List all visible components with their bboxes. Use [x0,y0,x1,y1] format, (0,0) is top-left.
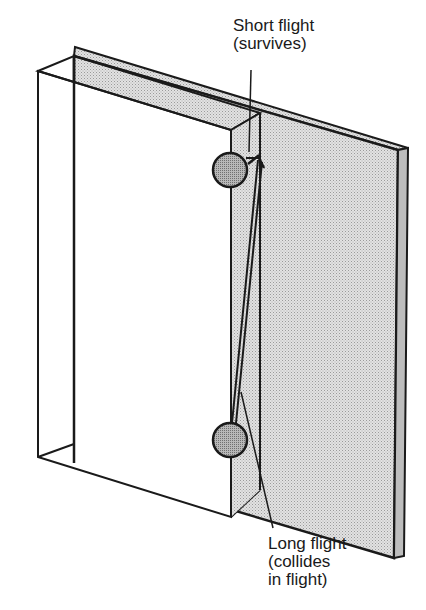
diagram-canvas [0,0,426,610]
particle-top [213,153,247,187]
short-flight-label: Short flight (survives) [233,17,314,53]
particle-bottom [213,423,247,457]
long-flight-label: Long flight (collides in flight) [268,535,346,589]
